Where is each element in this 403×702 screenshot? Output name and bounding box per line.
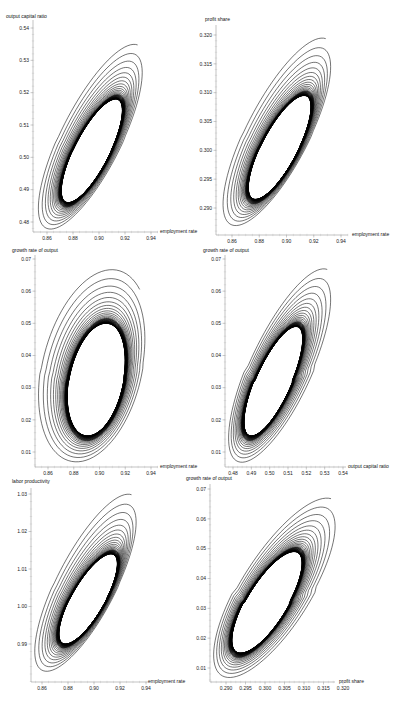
x-tick-label: 0.86 [37, 685, 47, 691]
x-tick-label: 0.88 [68, 235, 78, 241]
y-tick-label: 0.02 [196, 635, 206, 641]
x-axis-title: employment rate [352, 231, 389, 237]
y-tick-label: 1.01 [17, 566, 27, 572]
y-tick-label: 0.01 [196, 665, 206, 671]
x-tick-label: 0.88 [63, 685, 73, 691]
y-tick-label: 0.49 [19, 186, 29, 192]
y-tick-label: 0.03 [21, 384, 31, 390]
y-tick-label: 0.05 [196, 545, 206, 551]
y-axis-title: growth rate of output [186, 475, 232, 481]
y-tick-label: 0.02 [21, 417, 31, 423]
y-tick-label: 0.03 [211, 384, 221, 390]
x-tick-label: 0.300 [259, 685, 272, 691]
y-tick-label: 0.315 [199, 61, 212, 67]
x-tick-label: 0.90 [94, 235, 104, 241]
x-tick-label: 0.92 [309, 238, 319, 244]
y-tick-label: 0.295 [199, 176, 212, 182]
x-axis-title: profit share [339, 678, 364, 684]
y-axis-title: profit share [205, 16, 230, 22]
x-tick-label: 0.54 [338, 470, 348, 476]
trajectory-line [38, 44, 142, 229]
x-tick-label: 0.94 [146, 235, 156, 241]
x-axis-title: output capital ratio [348, 463, 389, 469]
x-tick-label: 0.90 [282, 238, 292, 244]
y-tick-label: 0.04 [211, 352, 221, 358]
trajectory-line [35, 494, 136, 671]
y-tick-label: 0.03 [196, 605, 206, 611]
limit-cycle [65, 319, 128, 441]
chart-4-phase-plot: 0.480.490.500.510.520.530.540.010.020.03… [203, 247, 389, 476]
y-tick-label: 0.54 [19, 25, 29, 31]
y-tick-label: 0.02 [211, 417, 221, 423]
y-tick-label: 0.07 [196, 486, 206, 492]
x-tick-label: 0.320 [337, 685, 350, 691]
chart-5-phase-plot: 0.860.880.900.920.940.991.001.011.021.03… [12, 478, 185, 691]
y-tick-label: 0.50 [19, 154, 29, 160]
y-tick-label: 1.02 [17, 528, 27, 534]
y-tick-label: 0.300 [199, 147, 212, 153]
y-axis-title: growth rate of output [12, 247, 58, 253]
y-tick-label: 1.03 [17, 491, 27, 497]
x-tick-label: 0.290 [220, 685, 233, 691]
x-tick-label: 0.49 [246, 470, 256, 476]
chart-3-phase-plot: 0.860.880.900.920.940.010.020.030.040.05… [12, 247, 197, 476]
x-tick-label: 0.88 [254, 238, 264, 244]
x-tick-label: 0.88 [69, 470, 79, 476]
y-axis-title: labor productivity [12, 478, 50, 484]
x-tick-label: 0.90 [95, 470, 105, 476]
x-tick-label: 0.51 [283, 470, 293, 476]
x-axis-title: employment rate [148, 678, 185, 684]
y-tick-label: 0.06 [211, 288, 221, 294]
x-tick-label: 0.310 [298, 685, 311, 691]
x-tick-label: 0.92 [115, 685, 125, 691]
y-tick-label: 0.99 [17, 641, 27, 647]
x-tick-label: 0.94 [146, 470, 156, 476]
x-tick-label: 0.86 [42, 235, 52, 241]
x-tick-label: 0.92 [120, 235, 130, 241]
x-tick-label: 0.53 [320, 470, 330, 476]
x-tick-label: 0.86 [227, 238, 237, 244]
x-tick-label: 0.50 [265, 470, 275, 476]
chart-2-phase-plot: 0.860.880.900.920.940.2900.2950.3000.305… [199, 16, 389, 244]
y-tick-label: 0.48 [19, 219, 29, 225]
y-tick-label: 0.01 [211, 449, 221, 455]
x-tick-label: 0.90 [89, 685, 99, 691]
y-tick-label: 0.04 [196, 575, 206, 581]
y-tick-label: 0.05 [21, 320, 31, 326]
y-tick-label: 0.07 [21, 256, 31, 262]
y-tick-label: 0.51 [19, 122, 29, 128]
y-tick-label: 0.04 [21, 352, 31, 358]
x-tick-label: 0.94 [141, 685, 151, 691]
y-tick-label: 0.320 [199, 32, 212, 38]
y-tick-label: 0.290 [199, 205, 212, 211]
y-tick-label: 0.53 [19, 57, 29, 63]
y-axis-title: growth rate of output [203, 247, 249, 253]
y-tick-label: 0.06 [196, 516, 206, 522]
y-tick-label: 0.06 [21, 288, 31, 294]
y-axis-title: output capital ratio [6, 13, 47, 19]
x-tick-label: 0.52 [301, 470, 311, 476]
x-axis-title: employment rate [160, 228, 197, 234]
chart-6-phase-plot: 0.2900.2950.3000.3050.3100.3150.3200.010… [186, 475, 364, 691]
x-tick-label: 0.295 [239, 685, 252, 691]
figure-canvas: 0.860.880.900.920.940.480.490.500.510.52… [0, 0, 403, 702]
trajectory-line [39, 270, 145, 462]
y-tick-label: 0.05 [211, 320, 221, 326]
y-tick-label: 0.310 [199, 89, 212, 95]
x-tick-label: 0.315 [317, 685, 330, 691]
x-tick-label: 0.92 [120, 470, 130, 476]
y-tick-label: 0.305 [199, 118, 212, 124]
x-axis-title: employment rate [160, 463, 197, 469]
x-tick-label: 0.86 [43, 470, 53, 476]
trajectory-line [223, 38, 331, 225]
y-tick-label: 0.07 [211, 256, 221, 262]
chart-1-phase-plot: 0.860.880.900.920.940.480.490.500.510.52… [6, 13, 197, 241]
y-tick-label: 0.01 [21, 449, 31, 455]
y-tick-label: 1.00 [17, 603, 27, 609]
y-tick-label: 0.52 [19, 89, 29, 95]
x-tick-label: 0.305 [278, 685, 291, 691]
x-tick-label: 0.94 [336, 238, 346, 244]
